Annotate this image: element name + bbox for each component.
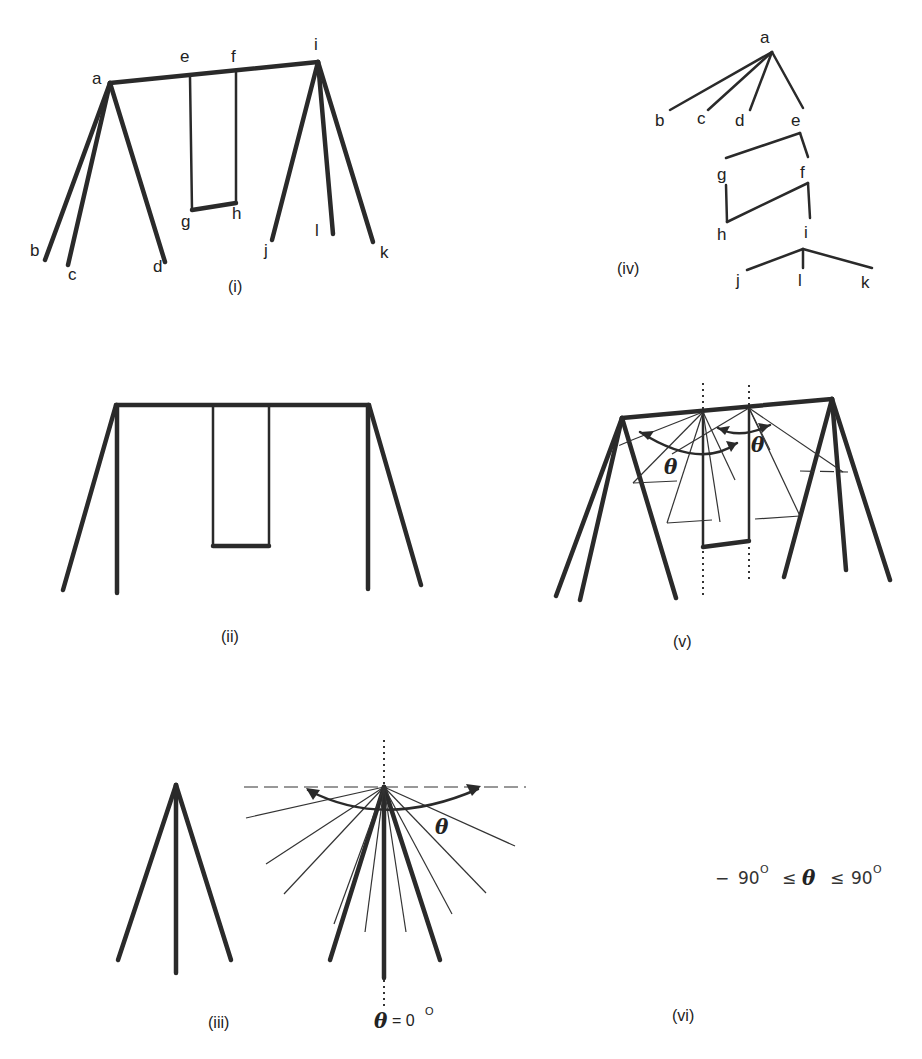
range-max: 90 — [851, 868, 873, 888]
tree-node-j: j — [735, 271, 740, 290]
joint-label-k: k — [380, 243, 389, 262]
joint-label-h: h — [232, 204, 241, 223]
caption-vi: (vi) — [672, 1007, 694, 1024]
caption-iv: (iv) — [617, 260, 639, 277]
panel-vi-angle-range: − 90 O ≤ θ ≤ 90 O (vi) — [672, 863, 882, 1024]
panel-iii-angle-sweep: θ θ = 0 O (iii) — [208, 740, 526, 1033]
leq-operator-2: ≤ — [830, 868, 844, 888]
theta-label-iii: θ — [435, 815, 449, 839]
figure-canvas: a b c d e f g h i j k l (i) a b c d e g … — [0, 0, 922, 1059]
theta-label-v-right: θ — [751, 433, 765, 457]
tree-node-c: c — [697, 109, 706, 128]
tree-node-i: i — [804, 223, 808, 242]
tree-node-l: l — [798, 271, 802, 290]
joint-label-e: e — [180, 47, 189, 66]
joint-label-b: b — [30, 241, 39, 260]
rotation-arc-left — [640, 432, 737, 454]
tree-node-f: f — [800, 163, 805, 182]
caption-iii: (iii) — [208, 1014, 229, 1031]
panel-iii-aframe — [118, 785, 231, 973]
caption-ii: (ii) — [221, 628, 239, 645]
joint-label-g: g — [181, 212, 190, 231]
leq-operator-1: ≤ — [782, 868, 796, 888]
panel-v-swing-rotation: θ θ (v) — [556, 383, 890, 650]
joint-label-j: j — [263, 241, 268, 260]
joint-label-l: l — [315, 221, 319, 240]
minus-sign: − — [715, 868, 729, 888]
tree-node-g: g — [717, 165, 726, 184]
tree-node-k: k — [861, 273, 870, 292]
rotation-arc — [308, 789, 478, 810]
range-min: 90 — [738, 868, 760, 888]
joint-label-f: f — [231, 47, 236, 66]
tree-node-b: b — [655, 111, 664, 130]
joint-label-i: i — [314, 35, 318, 54]
panel-i-swing-labeled: a b c d e f g h i j k l (i) — [30, 35, 389, 295]
joint-label-d: d — [153, 257, 162, 276]
tree-node-e: e — [791, 111, 800, 130]
degree-symbol: O — [425, 1005, 434, 1017]
panel-ii-swing-front: (ii) — [63, 405, 421, 645]
theta-zero-value: = 0 — [392, 1012, 415, 1029]
theta-label-v-left: θ — [664, 455, 678, 479]
joint-label-a: a — [92, 69, 102, 88]
theta-symbol: θ — [802, 866, 816, 890]
tree-node-h: h — [717, 225, 726, 244]
theta-zero-symbol: θ — [374, 1009, 388, 1033]
tree-node-a: a — [760, 28, 770, 47]
joint-label-c: c — [68, 265, 77, 284]
range-max-degree: O — [873, 863, 882, 876]
caption-v: (v) — [673, 633, 692, 650]
range-min-degree: O — [760, 863, 769, 876]
caption-i: (i) — [228, 278, 242, 295]
panel-iv-tree: a b c d e g f h i j l k (iv) — [617, 28, 872, 292]
tree-node-d: d — [735, 111, 744, 130]
